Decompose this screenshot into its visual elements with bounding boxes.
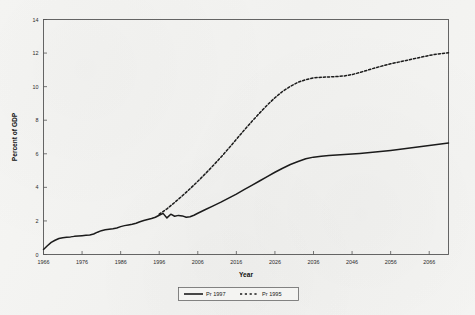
- y-tick-label: 4: [36, 184, 39, 190]
- y-tick-label: 8: [36, 117, 39, 123]
- series-line-pr-1997: [44, 143, 449, 249]
- x-tick-label: 1986: [115, 259, 127, 265]
- y-tick-label: 10: [33, 84, 39, 90]
- series-line-pr-1995: [159, 53, 448, 214]
- data-series-group: [44, 53, 449, 250]
- x-tick-label: 1976: [76, 259, 88, 265]
- x-tick-label: 2046: [346, 259, 358, 265]
- x-tick-label: 2016: [230, 259, 242, 265]
- x-tick-label: 2066: [423, 259, 435, 265]
- y-axis-tick-group: 02468101214: [33, 17, 48, 258]
- legend-label-pr-1997: Pr 1997: [206, 291, 226, 297]
- chart-screenshot: 02468101214 1966197619861996200620162026…: [0, 0, 475, 315]
- x-axis-tick-group: 1966197619861996200620162026203620462056…: [38, 251, 436, 265]
- y-tick-label: 14: [33, 17, 39, 23]
- y-tick-label: 0: [36, 252, 39, 258]
- y-tick-label: 6: [36, 151, 39, 157]
- x-tick-label: 2006: [192, 259, 204, 265]
- legend-label-pr-1995: Pr 1995: [262, 291, 282, 297]
- chart-legend: Pr 1997 Pr 1995: [179, 288, 299, 301]
- x-tick-label: 1966: [38, 259, 50, 265]
- x-tick-label: 1996: [153, 259, 165, 265]
- x-axis-title: Year: [239, 271, 253, 278]
- y-tick-label: 2: [36, 218, 39, 224]
- x-tick-label: 2026: [269, 259, 281, 265]
- line-chart: 02468101214 1966197619861996200620162026…: [0, 0, 475, 315]
- y-tick-label: 12: [33, 50, 39, 56]
- x-tick-label: 2056: [385, 259, 397, 265]
- y-axis-title: Percent of GDP: [11, 112, 18, 161]
- x-tick-label: 2036: [308, 259, 320, 265]
- plot-area-border: [44, 20, 449, 255]
